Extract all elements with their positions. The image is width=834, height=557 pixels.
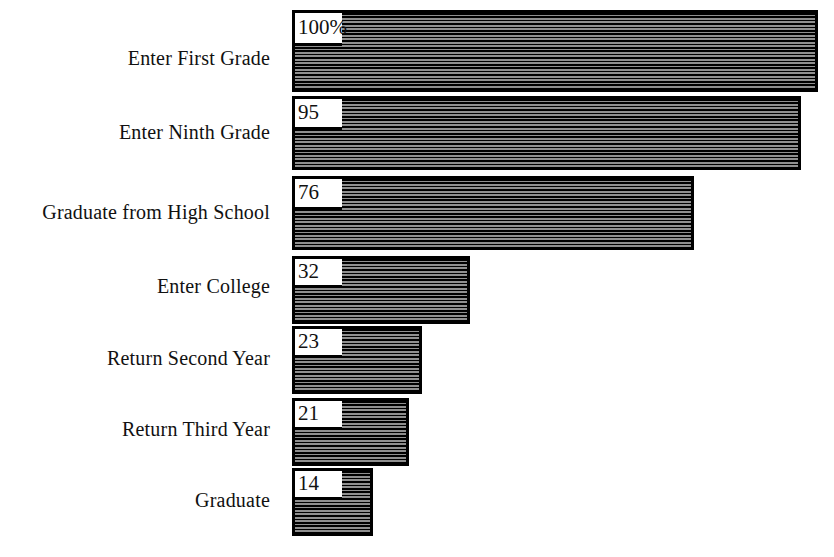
- value-label: 23: [298, 329, 319, 354]
- value-label: 21: [298, 401, 319, 426]
- value-label: 14: [298, 471, 319, 496]
- bar: [292, 10, 818, 92]
- category-label: Return Second Year: [0, 347, 270, 370]
- category-label: Enter Ninth Grade: [0, 121, 270, 144]
- category-label: Graduate: [0, 489, 270, 512]
- bar: [292, 176, 694, 250]
- bar: [292, 96, 801, 170]
- category-label: Return Third Year: [0, 418, 270, 441]
- value-label: 95: [298, 100, 319, 125]
- value-label: 76: [298, 180, 319, 205]
- bar-chart: Enter First Grade100%Enter Ninth Grade95…: [0, 0, 834, 557]
- category-label: Enter College: [0, 275, 270, 298]
- value-label: 100%: [298, 15, 347, 40]
- category-label: Graduate from High School: [0, 201, 270, 224]
- value-label: 32: [298, 259, 319, 284]
- category-label: Enter First Grade: [0, 47, 270, 70]
